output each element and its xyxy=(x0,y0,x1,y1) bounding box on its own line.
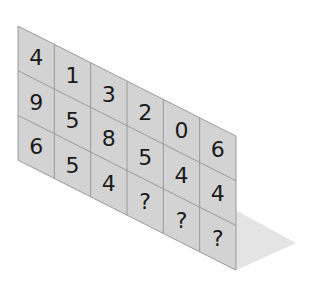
grid-cell-value: 5 xyxy=(138,145,152,170)
missing-value-cell: ? xyxy=(212,226,224,251)
grid-cell-value: 5 xyxy=(65,108,79,133)
grid-cell-value: 6 xyxy=(211,137,225,162)
grid-cell-value: 0 xyxy=(174,118,188,143)
grid-cell-value: 3 xyxy=(102,82,116,107)
grid-cell-value: 8 xyxy=(102,126,116,151)
floor-shadow xyxy=(236,210,296,270)
puzzle-scene: 413206958544654??? xyxy=(0,0,314,297)
grid-cell-value: 5 xyxy=(65,153,79,178)
grid-cell-value: 4 xyxy=(102,171,116,196)
grid-cell-value: 9 xyxy=(29,90,43,115)
missing-value-cell: ? xyxy=(139,189,151,214)
grid-cell-value: 4 xyxy=(29,45,43,70)
grid-cell-value: 1 xyxy=(65,63,79,88)
missing-value-cell: ? xyxy=(176,208,188,233)
grid-cell-value: 6 xyxy=(29,134,43,159)
grid-cell-value: 2 xyxy=(138,100,152,125)
grid-cell-value: 4 xyxy=(211,181,225,206)
grid-cell-value: 4 xyxy=(174,163,188,188)
